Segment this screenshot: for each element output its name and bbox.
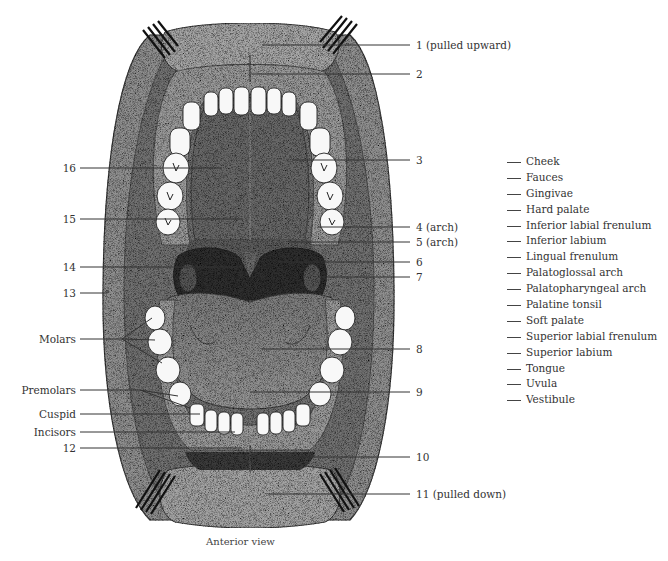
word-bank-item: Cheek [507,154,657,170]
answer-blank [507,337,521,338]
label-14: 14 [63,261,76,273]
answer-blank [507,289,521,290]
word-bank-item: Fauces [507,170,657,186]
answer-blank [507,226,521,227]
answer-blank [507,241,521,242]
answer-blank [507,210,521,211]
label-cuspid: Cuspid [39,408,76,420]
answer-blank [507,369,521,370]
answer-blank [507,178,521,179]
answer-blank [507,162,521,163]
label-11: 11 (pulled down) [416,488,506,500]
label-incisors: Incisors [34,426,76,438]
label-13: 13 [63,287,76,299]
label-4: 4 (arch) [416,221,458,233]
palatine-tonsil-right [303,264,321,292]
label-3: 3 [416,154,423,166]
word-bank-item: Superior labial frenulum [507,329,657,345]
label-8: 8 [416,343,423,355]
answer-blank [507,353,521,354]
label-2: 2 [416,68,423,80]
label-6: 6 [416,256,423,268]
label-10: 10 [416,451,429,463]
label-molars: Molars [39,333,76,345]
label-1: 1 (pulled upward) [416,39,511,51]
answer-blank [507,400,521,401]
word-bank-item: Palatine tonsil [507,297,657,313]
word-bank-item: Lingual frenulum [507,249,657,265]
label-15: 15 [63,213,76,225]
inferior-labium [160,464,340,528]
answer-blank [507,321,521,322]
label-5: 5 (arch) [416,236,458,248]
word-bank-item: Uvula [507,376,657,392]
word-bank-item: Inferior labial frenulum [507,218,657,234]
word-bank: Cheek Fauces Gingivae Hard palate Inferi… [507,154,657,408]
word-bank-item: Gingivae [507,186,657,202]
word-bank-item: Palatopharyngeal arch [507,281,657,297]
label-16: 16 [63,162,76,174]
label-7: 7 [416,271,423,283]
word-bank-item: Vestibule [507,392,657,408]
answer-blank [507,257,521,258]
view-caption: Anterior view [206,536,275,548]
answer-blank [507,194,521,195]
word-bank-item: Hard palate [507,202,657,218]
word-bank-item: Superior labium [507,345,657,361]
label-12: 12 [63,442,76,454]
word-bank-item: Palatoglossal arch [507,265,657,281]
word-bank-item: Tongue [507,361,657,377]
word-bank-item: Inferior labium [507,233,657,249]
label-9: 9 [416,386,423,398]
palatine-tonsil-left [179,264,197,292]
word-bank-item: Soft palate [507,313,657,329]
answer-blank [507,305,521,306]
answer-blank [507,384,521,385]
answer-blank [507,273,521,274]
label-premolars: Premolars [21,384,76,396]
